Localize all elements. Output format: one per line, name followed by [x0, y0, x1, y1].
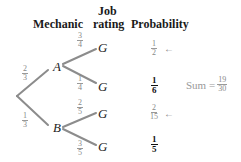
branch-a-g — [63, 49, 96, 64]
node-b: B — [53, 121, 61, 134]
outcome-prob-1: 1 2 — [151, 40, 157, 57]
outcome-prob-3: 2 15 — [150, 104, 158, 121]
branch-prob-a-g: 3 4 — [77, 32, 83, 49]
sum-annotation: Sum = 19 30 — [186, 76, 227, 93]
outcome-prob-4: 1 5 — [151, 135, 158, 154]
sum-label: Sum = — [186, 79, 215, 91]
arrow-left-icon: ← — [164, 108, 174, 119]
branch-prob-b-gbar: 3 5 — [77, 140, 83, 157]
leaf-a-g: G — [98, 41, 107, 54]
branch-prob-b: 1 3 — [22, 112, 28, 129]
leaf-b-g: G — [98, 107, 107, 120]
leaf-b-gbar: G — [98, 140, 107, 153]
branch-prob-a-gbar: 1 4 — [77, 75, 83, 92]
branch-prob-a: 2 3 — [22, 65, 28, 82]
outcome-prob-2: 1 6 — [151, 76, 158, 95]
arrow-left-icon: ← — [164, 43, 174, 54]
leaf-a-gbar: G — [98, 80, 107, 93]
sum-value: 19 30 — [217, 76, 227, 93]
node-a: A — [53, 60, 61, 73]
branch-prob-b-g: 2 5 — [77, 99, 83, 116]
